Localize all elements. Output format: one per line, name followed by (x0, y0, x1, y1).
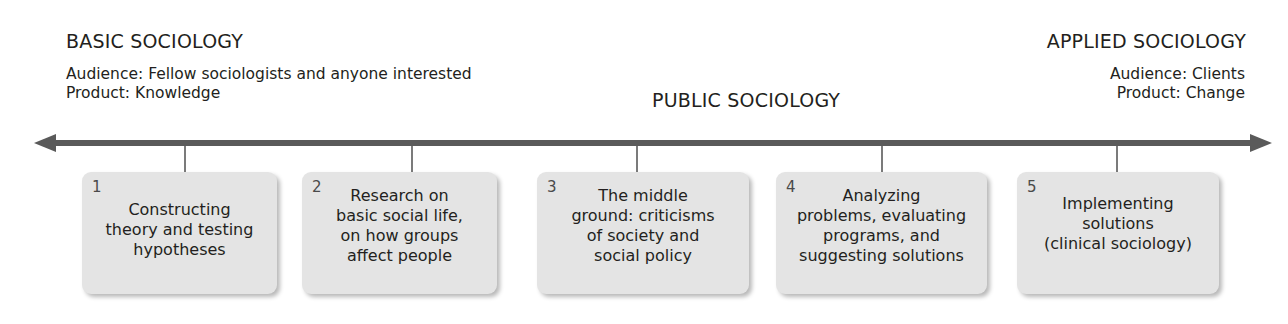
stage-box-2: 2 Research on basic social life, on how … (302, 172, 497, 294)
stage-description: Constructing theory and testing hypothes… (88, 200, 271, 260)
arrowhead-left-icon (34, 134, 56, 152)
arrowhead-right-icon (1250, 134, 1272, 152)
stage-box-3: 3 The middle ground: criticisms of socie… (537, 172, 749, 294)
stage-number: 1 (92, 178, 102, 196)
stage-description: Research on basic social life, on how gr… (308, 186, 491, 266)
stage-box-5: 5 Implementing solutions (clinical socio… (1017, 172, 1219, 294)
stage-box-1: 1 Constructing theory and testing hypoth… (82, 172, 277, 294)
stage-box-4: 4 Analyzing problems, evaluating program… (776, 172, 987, 294)
stage-description: Analyzing problems, evaluating programs,… (782, 186, 981, 266)
stage-description: The middle ground: criticisms of society… (543, 186, 743, 266)
stage-description: Implementing solutions (clinical sociolo… (1023, 194, 1213, 254)
